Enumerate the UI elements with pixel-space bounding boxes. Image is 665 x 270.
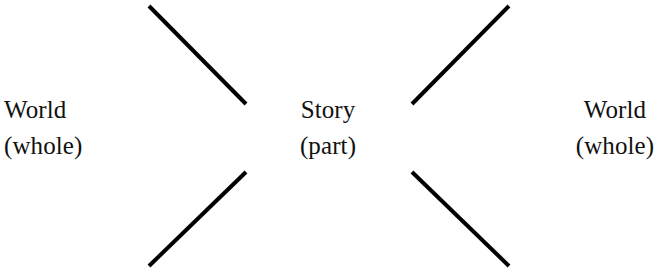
label-story-center-line2: (part) xyxy=(263,128,393,164)
bottom-left-converging-line xyxy=(149,172,246,266)
label-world-right-line2: (whole) xyxy=(565,128,665,164)
label-world-right: World (whole) xyxy=(565,92,665,164)
label-story-center-line1: Story xyxy=(263,92,393,128)
label-world-left: World (whole) xyxy=(4,92,82,164)
label-world-left-line2: (whole) xyxy=(4,128,82,164)
bottom-right-converging-line xyxy=(412,172,509,266)
label-world-left-line1: World xyxy=(4,92,82,128)
top-right-converging-line xyxy=(412,6,509,104)
label-story-center: Story (part) xyxy=(263,92,393,164)
label-world-right-line1: World xyxy=(565,92,665,128)
diagram-canvas: World (whole) Story (part) World (whole) xyxy=(0,0,665,270)
top-left-converging-line xyxy=(149,6,246,104)
